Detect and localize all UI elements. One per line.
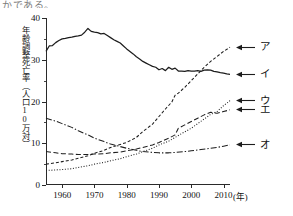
plot-area: 010203040 196019701980199020002010 (46, 18, 230, 185)
legend-arrow-ウ (236, 96, 256, 105)
y-tick-label-40: 40 (31, 14, 40, 23)
series-line-ア (46, 47, 230, 164)
y-tick-label-10: 10 (31, 139, 40, 148)
y-axis-label: 年齢調整死亡率（人口10万対） (8, 26, 29, 188)
y-tick-label-20: 20 (31, 97, 40, 106)
series-line-エ (46, 110, 230, 155)
y-tick-label-30: 30 (31, 55, 40, 64)
x-tick-label-2010: 2010 (215, 190, 233, 200)
legend-arrow-オ (236, 140, 256, 149)
legend-label-イ: イ (260, 68, 270, 79)
y-tick-label-0: 0 (36, 181, 41, 190)
series-line-イ (46, 28, 230, 74)
x-tick-label-1970: 1970 (85, 190, 103, 200)
y-tick-0 (42, 185, 46, 186)
x-tick-label-1960: 1960 (53, 190, 71, 200)
chart-figure: かである。 年齢調整死亡率（人口10万対） 010203040 19601970… (0, 0, 293, 216)
x-tick-label-2000: 2000 (182, 190, 200, 200)
x-axis-unit-label: (年) (233, 190, 248, 202)
legend-label-エ: エ (260, 104, 270, 115)
legend-label-オ: オ (260, 139, 270, 150)
legend-label-ア: ア (260, 41, 270, 52)
legend-arrow-ア (236, 43, 256, 52)
cut-off-heading-text: かである。 (2, 0, 55, 8)
legend-arrow-エ (236, 105, 256, 114)
x-tick-label-1980: 1980 (118, 190, 136, 200)
x-tick-label-1990: 1990 (150, 190, 168, 200)
legend-arrow-イ (236, 70, 256, 79)
series-lines (46, 18, 230, 185)
